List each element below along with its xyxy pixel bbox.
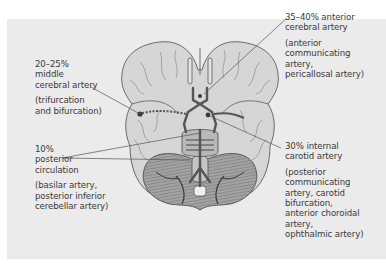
aca-detail-3: artery, — [285, 59, 364, 69]
mca-line-2: middle — [35, 69, 102, 79]
aneurysm-acom — [198, 94, 202, 98]
ica-line-1: 30% internal — [285, 141, 363, 151]
aneurysm-ica — [206, 113, 211, 118]
post-detail-2: posterior inferior — [35, 191, 108, 201]
label-posterior-circulation: 10% posterior circulation (basilar arter… — [35, 144, 108, 211]
ica-detail-1: (posterior — [285, 167, 363, 177]
post-detail-3: cerebellar artery) — [35, 201, 108, 211]
mca-line-3: cerebral artery — [35, 80, 102, 90]
ica-detail-6: artery, — [285, 219, 363, 229]
aca-detail-4: pericallosal artery) — [285, 69, 364, 79]
aca-line-1: 35–40% anterior — [285, 12, 364, 22]
ica-line-2: carotid artery — [285, 151, 363, 161]
ica-detail: (posterior communicating artery, carotid… — [285, 167, 363, 240]
label-internal-carotid-artery: 30% internal carotid artery (posterior c… — [285, 141, 363, 240]
ica-detail-2: communicating — [285, 177, 363, 187]
mca-line-1: 20–25% — [35, 59, 102, 69]
mca-detail-2: and bifurcation) — [35, 106, 102, 116]
ica-detail-5: anterior choroidal — [285, 208, 363, 218]
post-detail-1: (basilar artery, — [35, 180, 108, 190]
label-anterior-cerebral-artery: 35–40% anterior cerebral artery (anterio… — [285, 12, 364, 79]
post-line-1: 10% — [35, 144, 108, 154]
aca-detail-2: communicating — [285, 48, 364, 58]
post-detail: (basilar artery, posterior inferior cere… — [35, 180, 108, 211]
mca-detail-1: (trifurcation — [35, 95, 102, 105]
ica-detail-3: artery, carotid — [285, 188, 363, 198]
ica-detail-4: bifurcation, — [285, 198, 363, 208]
post-line-3: circulation — [35, 165, 108, 175]
label-middle-cerebral-artery: 20–25% middle cerebral artery (trifurcat… — [35, 59, 102, 116]
aca-detail: (anterior communicating artery, pericall… — [285, 38, 364, 80]
mca-detail: (trifurcation and bifurcation) — [35, 95, 102, 116]
post-line-2: posterior — [35, 154, 108, 164]
aca-detail-1: (anterior — [285, 38, 364, 48]
ica-detail-7: ophthalmic artery) — [285, 229, 363, 239]
aca-line-2: cerebral artery — [285, 22, 364, 32]
